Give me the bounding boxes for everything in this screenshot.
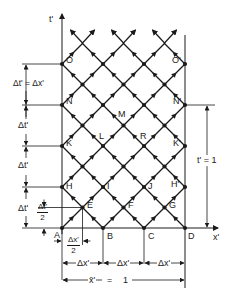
dim-label-dx-2: Δx'	[116, 259, 130, 268]
dim-label-dt-2: Δt'	[18, 121, 28, 130]
outgoing-arrow-right	[83, 30, 95, 43]
point-label-h-prime: H'	[171, 180, 179, 189]
point-label-a: A	[54, 231, 60, 240]
dim-label-dt-equals-dx: Δt' = Δx'	[13, 79, 44, 88]
axes	[62, 14, 218, 288]
dim-label-dt-3: Δt'	[18, 161, 28, 170]
dim-label-half-dt: Δt' 2	[37, 203, 48, 222]
point-label-j: J	[148, 182, 153, 191]
point-label-e: E	[87, 201, 93, 210]
grid-node	[162, 164, 166, 168]
grid-node	[80, 82, 84, 86]
point-label-h: H	[66, 182, 73, 191]
dim-label-total-x: x̄'	[88, 276, 96, 285]
point-label-m: M	[118, 110, 126, 119]
point-label-o: O	[66, 56, 73, 65]
grid-node	[162, 205, 166, 209]
grid-node	[162, 123, 166, 127]
grid-node	[183, 185, 187, 189]
point-label-r: R	[140, 132, 147, 141]
grid-node	[142, 185, 146, 189]
point-label-n-prime: N'	[173, 97, 181, 106]
point-label-d: D	[188, 232, 195, 241]
grid-node	[101, 62, 105, 66]
grid-node	[121, 164, 125, 168]
grid-node	[183, 226, 187, 230]
half-dt-numerator: Δt'	[37, 203, 48, 213]
point-label-i: I	[107, 182, 110, 191]
grid-node	[80, 164, 84, 168]
point-label-k-prime: K'	[173, 139, 181, 148]
grid-node	[121, 205, 125, 209]
grid-node	[121, 123, 125, 127]
outgoing-arrow-right	[124, 30, 136, 43]
point-label-n: N	[66, 97, 73, 106]
grid-node	[183, 62, 187, 66]
grid-node	[101, 103, 105, 107]
grid-node	[80, 123, 84, 127]
half-dt-denominator: 2	[37, 213, 48, 222]
grid-node	[142, 144, 146, 148]
dim-label-t-equals-1: t' = 1	[197, 155, 216, 166]
dim-label-total-one: 1	[121, 276, 130, 285]
dim-label-dx-3: Δx'	[157, 259, 171, 268]
outgoing-arrow-right	[165, 30, 177, 43]
x-axis-label: x'	[213, 233, 219, 242]
dim-label-dt-4: Δt'	[18, 204, 28, 213]
point-label-f: F	[128, 201, 134, 210]
grid-node	[142, 103, 146, 107]
outgoing-arrow-left	[153, 30, 165, 43]
t-axis-label: t'	[49, 15, 53, 24]
half-dx-denominator: 2	[67, 246, 80, 255]
outgoing-arrow-left	[112, 30, 124, 43]
point-label-g: G	[169, 201, 176, 210]
point-label-b: B	[107, 232, 113, 241]
grid-node	[162, 82, 166, 86]
grid-node	[142, 62, 146, 66]
point-label-l: L	[99, 132, 104, 141]
dim-label-half-dx: Δx' 2	[67, 236, 80, 255]
dim-label-total-eq: =	[106, 276, 113, 285]
point-label-c: C	[148, 232, 155, 241]
grid-node	[121, 82, 125, 86]
diagram-canvas	[0, 0, 230, 298]
grid-node	[101, 144, 105, 148]
dim-label-dx-1: Δx'	[76, 259, 90, 268]
characteristic-lines	[62, 30, 185, 228]
grid-node	[183, 144, 187, 148]
half-dx-numerator: Δx'	[67, 236, 80, 246]
direction-arrows	[69, 52, 179, 222]
point-label-k: K	[66, 139, 72, 148]
characteristic-grid-diagram: t' x' O O' N N' M K L R K' H I J H' E F …	[0, 0, 230, 298]
grid-node	[101, 185, 105, 189]
point-label-o-prime: O'	[172, 56, 181, 65]
outgoing-arrow-left	[71, 30, 83, 43]
